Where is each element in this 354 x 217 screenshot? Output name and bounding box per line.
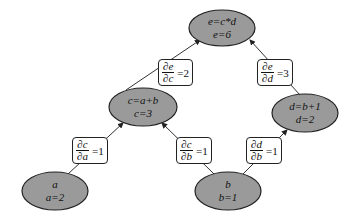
node-a-name: a (52, 178, 58, 190)
derivative-value: =1 (266, 145, 278, 157)
computational-graph: e=c*d e=6 c=a+b c=3 d=b+1 d=2 a a=2 b b=… (0, 0, 354, 217)
derivative-value: =1 (92, 145, 104, 157)
node-d-formula: d=b+1 (289, 100, 320, 112)
denominator: ∂a (76, 151, 89, 162)
denominator: ∂d (261, 73, 274, 84)
fraction: ∂e ∂c (162, 61, 174, 84)
fraction: ∂e ∂d (261, 61, 274, 84)
edge-label-dd-db: ∂d ∂b =1 (246, 137, 282, 164)
derivative-value: =3 (277, 67, 289, 79)
node-e-value: e=6 (213, 28, 231, 40)
edge-label-de-dd: ∂e ∂d =3 (257, 59, 293, 86)
fraction: ∂d ∂b (250, 139, 263, 162)
denominator: ∂b (180, 151, 193, 162)
node-b: b b=1 (195, 172, 261, 210)
node-a-value: a=2 (46, 191, 65, 203)
node-e: e=c*d e=6 (189, 10, 255, 46)
node-a: a a=2 (22, 172, 88, 210)
node-d-value: d=2 (296, 113, 315, 125)
derivative-value: =1 (196, 145, 208, 157)
node-c-formula: c=a+b (128, 94, 159, 106)
node-c: c=a+b c=3 (109, 88, 177, 126)
node-d: d=b+1 d=2 (272, 94, 338, 132)
denominator: ∂c (162, 73, 174, 84)
node-c-value: c=3 (134, 107, 152, 119)
derivative-value: =2 (177, 67, 189, 79)
edge-label-de-dc: ∂e ∂c =2 (158, 59, 193, 86)
edge-label-dc-da: ∂c ∂a =1 (72, 137, 108, 164)
node-b-name: b (225, 178, 231, 190)
node-e-formula: e=c*d (208, 15, 237, 27)
node-b-value: b=1 (219, 191, 237, 203)
fraction: ∂c ∂b (180, 139, 193, 162)
fraction: ∂c ∂a (76, 139, 89, 162)
edge-label-dc-db: ∂c ∂b =1 (176, 137, 212, 164)
denominator: ∂b (250, 151, 263, 162)
